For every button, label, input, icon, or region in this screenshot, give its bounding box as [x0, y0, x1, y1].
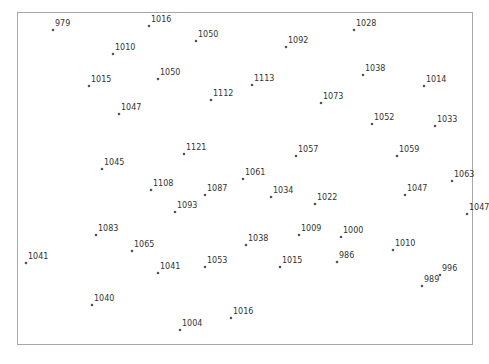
- point-label: 1022: [317, 193, 337, 202]
- data-point: 1038: [245, 234, 269, 246]
- point-marker: [179, 329, 182, 332]
- point-label: 1050: [198, 30, 218, 39]
- data-point: 1047: [466, 203, 489, 215]
- data-point: 1015: [279, 256, 303, 268]
- point-label: 1093: [177, 201, 197, 210]
- data-point: 1050: [157, 68, 181, 80]
- data-point: 1087: [204, 184, 228, 196]
- point-label: 1053: [207, 256, 227, 265]
- point-marker: [118, 113, 121, 116]
- data-point: 1038: [362, 64, 386, 76]
- point-label: 1050: [160, 68, 180, 77]
- point-marker: [320, 102, 323, 105]
- data-point: 1053: [204, 256, 228, 268]
- data-point: 1052: [371, 113, 395, 125]
- point-marker: [396, 155, 399, 158]
- data-point: 1108: [150, 179, 174, 191]
- point-marker: [434, 125, 437, 128]
- point-label: 1083: [98, 224, 118, 233]
- point-marker: [101, 168, 104, 171]
- point-marker: [242, 178, 245, 181]
- data-point: 979: [52, 19, 71, 31]
- point-label: 1063: [454, 170, 474, 179]
- point-marker: [404, 194, 407, 197]
- data-point: 1041: [157, 262, 181, 274]
- point-marker: [451, 180, 454, 183]
- point-marker: [230, 317, 233, 320]
- point-label: 1015: [282, 256, 302, 265]
- point-label: 1038: [365, 64, 385, 73]
- data-point: 1016: [230, 307, 254, 319]
- point-marker: [195, 40, 198, 43]
- point-label: 1041: [28, 252, 48, 261]
- point-marker: [150, 189, 153, 192]
- point-label: 1045: [104, 158, 124, 167]
- point-marker: [245, 244, 248, 247]
- data-point: 989: [421, 275, 440, 287]
- point-label: 1016: [151, 15, 171, 24]
- data-point: 1065: [131, 240, 155, 252]
- point-label: 1041: [160, 262, 180, 271]
- data-point: 1000: [340, 226, 364, 238]
- data-point: 1063: [451, 170, 475, 182]
- data-point: 1009: [298, 224, 322, 236]
- point-label: 1028: [356, 19, 376, 28]
- scatter-plot: 9791016105010101015105011121047111310921…: [0, 0, 489, 364]
- point-marker: [371, 123, 374, 126]
- point-label: 1009: [301, 224, 321, 233]
- point-label: 1040: [94, 294, 114, 303]
- data-point: 1010: [392, 239, 416, 251]
- point-marker: [392, 249, 395, 252]
- data-point: 1016: [148, 15, 172, 27]
- point-label: 1047: [469, 203, 489, 212]
- point-marker: [421, 285, 424, 288]
- point-marker: [270, 196, 273, 199]
- point-label: 1033: [437, 115, 457, 124]
- point-marker: [112, 53, 115, 56]
- point-marker: [466, 213, 469, 216]
- point-label: 1092: [288, 36, 308, 45]
- point-label: 1061: [245, 168, 265, 177]
- data-point: 1059: [396, 145, 420, 157]
- point-marker: [183, 153, 186, 156]
- point-label: 1073: [323, 92, 343, 101]
- point-label: 1112: [213, 89, 233, 98]
- point-label: 979: [55, 19, 70, 28]
- data-point: 1033: [434, 115, 458, 127]
- point-label: 1010: [395, 239, 415, 248]
- data-point: 1034: [270, 186, 294, 198]
- point-label: 1038: [248, 234, 268, 243]
- point-label: 1047: [121, 103, 141, 112]
- point-label: 1014: [426, 75, 446, 84]
- point-marker: [314, 203, 317, 206]
- point-label: 1015: [91, 75, 111, 84]
- data-point: 1073: [320, 92, 344, 104]
- point-marker: [204, 266, 207, 269]
- point-label: 1004: [182, 319, 202, 328]
- point-label: 1113: [254, 74, 274, 83]
- point-marker: [131, 250, 134, 253]
- data-point: 986: [336, 251, 355, 263]
- data-point: 1093: [174, 201, 198, 213]
- point-marker: [148, 25, 151, 28]
- data-point: 1083: [95, 224, 119, 236]
- point-label: 1059: [399, 145, 419, 154]
- point-label: 1121: [186, 143, 206, 152]
- data-point: 1045: [101, 158, 125, 170]
- point-label: 996: [442, 264, 457, 273]
- point-marker: [91, 304, 94, 307]
- data-point: 1047: [404, 184, 428, 196]
- data-point: 1047: [118, 103, 142, 115]
- data-point: 1010: [112, 43, 136, 55]
- data-point: 1014: [423, 75, 447, 87]
- point-marker: [204, 194, 207, 197]
- point-marker: [25, 262, 28, 265]
- point-marker: [95, 234, 98, 237]
- data-point: 1028: [353, 19, 377, 31]
- data-point: 1022: [314, 193, 338, 205]
- data-point: 1112: [210, 89, 234, 101]
- point-label: 1052: [374, 113, 394, 122]
- point-marker: [88, 85, 91, 88]
- point-label: 1034: [273, 186, 293, 195]
- point-label: 1108: [153, 179, 173, 188]
